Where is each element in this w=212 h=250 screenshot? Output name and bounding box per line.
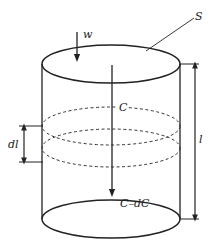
dl-label: dl	[8, 138, 19, 151]
bottom-surface-ellipse	[42, 200, 180, 238]
flux-label: w	[83, 28, 93, 41]
slice-bottom-ellipse	[42, 129, 180, 167]
l-label: l	[199, 133, 203, 146]
surface-label: S	[195, 10, 203, 23]
cylinder-diagram: w S C C–dC dl l	[0, 0, 212, 250]
top-surface-ellipse	[42, 45, 180, 83]
slice-top-ellipse	[42, 107, 180, 145]
concentration-top-label: C	[119, 101, 128, 114]
concentration-bottom-label: C–dC	[120, 197, 150, 210]
surface-leader-line	[146, 18, 194, 51]
